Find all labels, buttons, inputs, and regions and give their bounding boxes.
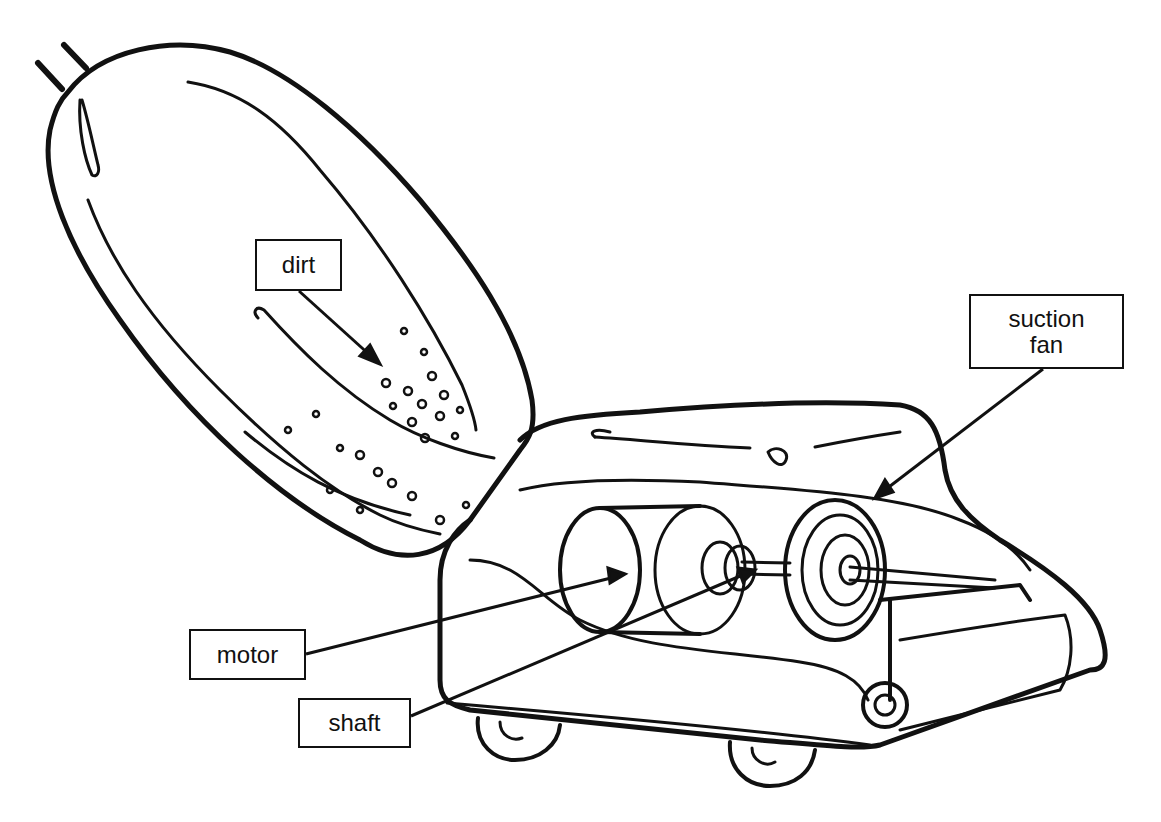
leader-lines xyxy=(299,291,1043,716)
label-motor-text: motor xyxy=(217,642,278,668)
label-shaft: shaft xyxy=(298,698,411,748)
vacuum-cleaner-diagram xyxy=(0,0,1161,822)
label-dirt-text: dirt xyxy=(282,252,315,278)
motor-illustration xyxy=(560,506,755,634)
suction-fan-illustration xyxy=(785,500,885,640)
brush-illustration xyxy=(863,585,1071,730)
dust-bag-illustration xyxy=(38,45,533,555)
label-motor: motor xyxy=(189,629,306,680)
label-shaft-text: shaft xyxy=(328,710,380,736)
label-suction-fan-text: suction fan xyxy=(1008,306,1084,358)
label-suction-fan: suction fan xyxy=(969,294,1124,369)
label-dirt: dirt xyxy=(255,239,342,291)
